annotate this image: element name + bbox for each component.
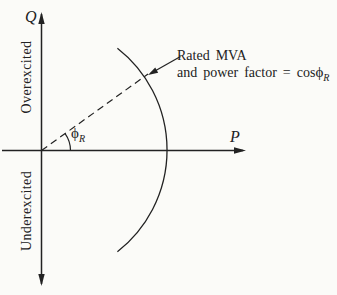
rated-mva-annotation: Rated MVA and power factor = cosϕR <box>177 47 329 81</box>
underexcited-region-label: Underexcited <box>20 168 36 254</box>
p-axis-label: P <box>230 129 240 145</box>
pq-capability-diagram: Q P Overexcited Underexcited Rated MVA a… <box>0 0 337 295</box>
angle-phi-symbol: ϕ <box>71 125 79 141</box>
angle-phi-subscript: R <box>79 133 85 144</box>
power-factor-angle-label: ϕR <box>71 126 85 141</box>
power-factor-angle-arc <box>65 134 70 151</box>
diagram-canvas <box>0 0 337 295</box>
q-axis-down-arrowhead-icon <box>38 274 44 286</box>
annotation-leader-arrowhead-icon <box>148 67 158 75</box>
annotation-line2-text: and power factor = cos <box>177 65 315 80</box>
annotation-line2: and power factor = cosϕR <box>177 64 329 81</box>
q-axis-label: Q <box>25 9 37 25</box>
q-axis-up-arrowhead-icon <box>38 12 44 24</box>
annotation-line1: Rated MVA <box>177 47 329 64</box>
overexcited-region-label: Overexcited <box>20 40 36 114</box>
phi-subscript: R <box>323 72 329 83</box>
rated-operating-point-dashed-line <box>42 74 149 151</box>
p-axis-arrowhead-icon <box>234 147 246 153</box>
